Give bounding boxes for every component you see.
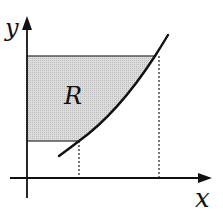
region-label: R — [63, 82, 82, 110]
y-axis-label: y — [4, 14, 19, 42]
y-axis-arrow-icon — [22, 16, 32, 30]
shaded-region — [27, 56, 155, 141]
x-axis-arrow-icon — [198, 173, 212, 183]
x-axis-label: x — [195, 183, 210, 213]
region-diagram: y x R — [0, 0, 223, 218]
